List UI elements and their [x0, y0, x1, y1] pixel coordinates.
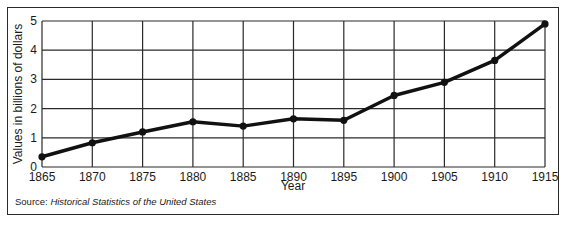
data-point-marker	[38, 153, 45, 160]
y-tick-label: 2	[30, 102, 37, 116]
x-tick-label: 1900	[381, 170, 408, 184]
y-tick-label: 5	[30, 14, 37, 28]
x-tick-label: 1870	[79, 170, 106, 184]
x-tick-label: 1875	[129, 170, 156, 184]
data-point-marker	[290, 115, 297, 122]
y-axis-ticks: 012345	[30, 14, 37, 174]
y-axis-label: Values in billions of dollars	[11, 24, 25, 165]
x-tick-label: 1865	[29, 170, 56, 184]
source-prefix: Source:	[15, 196, 50, 207]
data-point-marker	[139, 128, 146, 135]
y-tick-label: 1	[30, 131, 37, 145]
x-tick-label: 1885	[230, 170, 257, 184]
line-chart: 012345 186518701875188018851890189519001…	[0, 0, 568, 226]
data-point-marker	[441, 79, 448, 86]
x-tick-label: 1895	[330, 170, 357, 184]
x-tick-label: 1905	[431, 170, 458, 184]
data-point-marker	[240, 123, 247, 130]
data-point-marker	[391, 92, 398, 99]
x-tick-label: 1880	[180, 170, 207, 184]
data-point-marker	[189, 118, 196, 125]
x-axis-label: Year	[281, 179, 305, 193]
x-tick-label: 1915	[532, 170, 559, 184]
chart-grid	[42, 21, 545, 167]
data-point-marker	[89, 139, 96, 146]
y-tick-label: 4	[30, 43, 37, 57]
data-point-marker	[340, 117, 347, 124]
x-tick-label: 1910	[481, 170, 508, 184]
data-point-marker	[491, 57, 498, 64]
source-title: Historical Statistics of the United Stat…	[50, 196, 216, 207]
y-tick-label: 3	[30, 72, 37, 86]
data-point-marker	[541, 20, 548, 27]
source-note: Source: Historical Statistics of the Uni…	[15, 196, 216, 207]
